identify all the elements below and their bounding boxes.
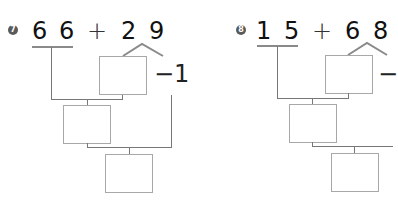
decompose-caret-icon: [0, 0, 393, 60]
adjust-label: −: [378, 62, 398, 86]
connector: [312, 146, 393, 147]
connector: [277, 98, 349, 99]
answer-box-partial-sum[interactable]: [289, 104, 337, 143]
connector: [354, 146, 355, 153]
answer-box-final[interactable]: [331, 153, 379, 192]
connector: [348, 93, 349, 99]
connector: [277, 46, 278, 99]
answer-box-split[interactable]: [325, 55, 373, 94]
